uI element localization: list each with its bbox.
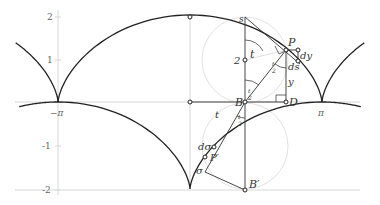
- lower-cycloid-right-partial: [322, 102, 361, 107]
- point-B: [243, 100, 247, 104]
- point-D: [284, 100, 288, 104]
- label-sigma: σ: [196, 165, 204, 176]
- label-half-t-P-num: t: [272, 60, 275, 67]
- point-center-2: [243, 58, 247, 62]
- label-angle-t: t: [250, 48, 255, 61]
- point-P-prime: [203, 155, 207, 159]
- upper-cycloid-right-partial: [322, 43, 364, 102]
- label-dsigma: dσ: [198, 141, 212, 152]
- y-tick-neg1: -1: [42, 141, 51, 151]
- angle-arc-half-t-P: [275, 64, 286, 68]
- label-2: 2: [233, 55, 240, 66]
- y-tick-neg2: -2: [42, 185, 51, 195]
- point-origin: [188, 100, 192, 104]
- segment-Pprime-Bprime: [205, 172, 245, 190]
- label-half-t-bottom-den: 2: [237, 120, 242, 127]
- label-half-t-bottom-num: t: [238, 113, 241, 120]
- label-dy: dy: [300, 50, 312, 61]
- label-t-segment: t: [215, 109, 220, 120]
- label-P: P: [287, 36, 296, 49]
- label-D: D: [288, 96, 298, 109]
- label-half-t-top-den: 2: [247, 94, 252, 101]
- point-dsigma: [212, 145, 216, 149]
- label-ds: ds: [288, 61, 300, 72]
- label-y: y: [287, 76, 294, 87]
- label-B-prime: B′: [248, 178, 260, 191]
- point-B-prime: [243, 188, 247, 192]
- upper-cycloid-left-partial: [16, 43, 58, 102]
- lower-cycloid-left-partial: [19, 102, 58, 107]
- angle-arc-half-t-top: [245, 80, 259, 85]
- label-B: B: [234, 96, 243, 109]
- label-half-t-P-den: 2: [271, 67, 276, 74]
- y-tick-2: 2: [47, 12, 53, 22]
- x-tick-neg-pi: −π: [50, 108, 65, 118]
- cycloid-diagram: 2 1 -1 -2 −π π: [0, 0, 380, 205]
- label-half-t-top-num: t: [248, 87, 251, 94]
- label-s: s: [239, 14, 244, 24]
- point-top: [188, 15, 192, 19]
- label-P-prime: P′: [209, 152, 220, 163]
- y-tick-1: 1: [47, 55, 53, 65]
- x-tick-pi: π: [317, 108, 325, 118]
